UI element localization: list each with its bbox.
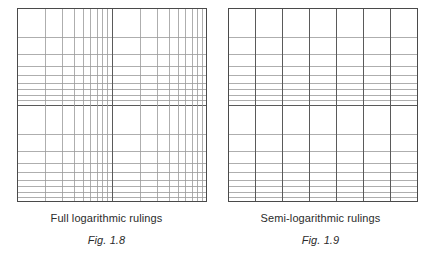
figure-panel-full-logarithmic: Full logarithmic rulings Fig. 1.8 — [0, 0, 213, 257]
semi-log-grid — [228, 8, 418, 202]
log-log-grid — [17, 8, 207, 202]
caption-title-fig-1-9: Semi-logarithmic rulings — [214, 212, 427, 224]
caption-label-fig-1-8: Fig. 1.8 — [0, 234, 213, 246]
caption-title-fig-1-8: Full logarithmic rulings — [0, 212, 213, 224]
semi-log-grid-svg — [228, 8, 418, 202]
figure-root: Full logarithmic rulings Fig. 1.8 Semi-l… — [0, 0, 427, 257]
log-log-grid-svg — [17, 8, 207, 202]
figure-panel-semi-logarithmic: Semi-logarithmic rulings Fig. 1.9 — [214, 0, 427, 257]
caption-label-fig-1-9: Fig. 1.9 — [214, 234, 427, 246]
